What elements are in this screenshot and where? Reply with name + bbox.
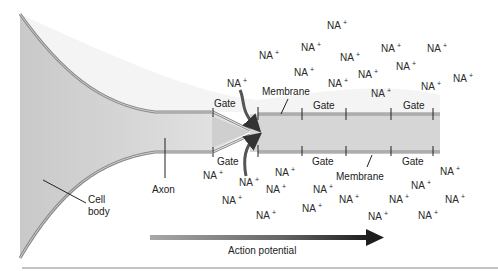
sodium-ion-label: NA+	[418, 209, 438, 221]
sodium-ion-label: NA+	[440, 165, 460, 177]
sodium-ion-label: NA+	[389, 193, 409, 205]
gate-label: Gate	[312, 156, 334, 167]
sodium-ion-label: NA+	[259, 49, 279, 61]
sodium-ion-label: NA+	[328, 77, 348, 89]
cell-body-label-line1: Cell	[88, 194, 105, 205]
membrane-bottom-label: Membrane	[336, 171, 384, 182]
sodium-ion-label: NA+	[421, 80, 441, 92]
sodium-ion-label: NA+	[445, 193, 465, 205]
membrane-top-label: Membrane	[262, 86, 310, 97]
action-potential-label: Action potential	[228, 245, 296, 256]
sodium-ion-label: NA+	[239, 176, 259, 188]
neuron-action-potential-diagram: Cell body Axon Membrane Membrane Gate Ga…	[0, 0, 498, 271]
sodium-ion-label: NA+	[256, 209, 276, 221]
sodium-ion-label: NA+	[427, 42, 447, 54]
sodium-ion-label: NA+	[453, 72, 473, 84]
gate-label: Gate	[403, 100, 425, 111]
axon-interior	[250, 114, 440, 152]
sodium-ion-label: NA+	[203, 169, 223, 181]
axon-label: Axon	[152, 184, 175, 195]
sodium-ion-label: NA+	[368, 210, 388, 222]
sodium-ion-label: NA+	[275, 166, 295, 178]
gate-label: Gate	[214, 98, 236, 109]
sodium-ion-label: NA+	[313, 183, 333, 195]
sodium-ion-label: NA+	[294, 66, 314, 78]
membrane-bottom-pointer-line	[367, 155, 372, 167]
sodium-ion-label: NA+	[381, 42, 401, 54]
sodium-ion-label: NA+	[266, 183, 286, 195]
gate-label: Gate	[402, 156, 424, 167]
sodium-ion-label: NA+	[411, 179, 431, 191]
sodium-ion-label: NA+	[301, 41, 321, 53]
sodium-ion-label: NA+	[340, 51, 360, 63]
sodium-ion-label: NA+	[396, 60, 416, 72]
cell-body-label-line2: body	[88, 206, 110, 217]
sodium-ion-label: NA+	[222, 194, 242, 206]
action-potential-arrow-head	[366, 229, 384, 246]
sodium-ion-label: NA+	[227, 77, 247, 89]
gate-label: Gate	[217, 156, 239, 167]
sodium-ion-label: NA+	[327, 19, 347, 31]
sodium-ion-label: NA+	[302, 202, 322, 214]
action-potential-arrow-shaft	[150, 235, 368, 240]
sodium-ions-outside-bottom: NA+NA+NA+NA+NA+NA+NA+NA+NA+NA+NA+NA+NA+N…	[203, 165, 465, 222]
sodium-ion-label: NA+	[358, 68, 378, 80]
gate-label: Gate	[313, 100, 335, 111]
sodium-ion-label: NA+	[339, 193, 359, 205]
